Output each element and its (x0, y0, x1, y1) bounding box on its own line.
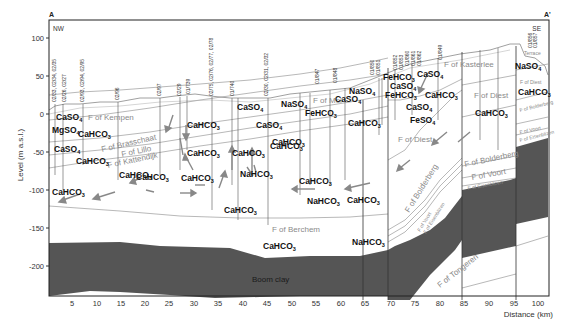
y-axis-label: Level (m a.s.l.) (16, 128, 25, 181)
x-tick: 40 (239, 299, 247, 308)
water-type: CaHCO3 (119, 170, 152, 181)
x-tick: 95 (510, 299, 518, 308)
y-tick: 50 (36, 72, 44, 81)
water-type: CaSO4 (237, 102, 264, 113)
y-tick: 100 (31, 34, 44, 43)
well-label: 01/851 (375, 59, 381, 75)
water-type: NaHCO3 (352, 237, 385, 248)
x-tick: 90 (485, 299, 493, 308)
formation-label: Boom clay (252, 275, 289, 284)
water-type: CaHCO3 (78, 129, 111, 140)
water-type: FeSO4 (410, 115, 436, 126)
water-type: CaHCO3 (518, 87, 551, 98)
x-tick: 25 (165, 299, 173, 308)
formation-label: F of Diest (520, 79, 542, 85)
x-axis-label: Distance (km) (504, 310, 554, 319)
water-type: NaHCO3 (240, 169, 273, 180)
water-type: CaSO4 (406, 102, 433, 113)
hydrogeological-cross-section: 100 50 0 -50 -100 -150 -200 Level (m a.s… (0, 0, 567, 331)
well-label: 01/847 (314, 68, 320, 84)
water-type: CaHCO3 (181, 173, 214, 184)
water-type: CaHCO3 (76, 156, 109, 167)
water-type: NaHCO3 (307, 196, 340, 207)
well-label: 02/30, 02/31, 02/32 (263, 53, 269, 96)
x-tick: 20 (141, 299, 149, 308)
well-label: 02/93, 02/94, 02/95 (79, 59, 85, 102)
formation-label: F of Bolderberg (464, 149, 520, 169)
x-tick: 100 (532, 299, 545, 308)
well-label: 02/96 (114, 87, 120, 100)
y-tick: -100 (29, 186, 44, 195)
y-tick: 0 (40, 110, 44, 119)
direction-nw: NW (53, 25, 65, 32)
formation-label: F of Kempen (88, 113, 134, 122)
water-type: CaHCO3 (232, 148, 265, 159)
formation-label: F of Diest (398, 135, 433, 144)
section-start-label: A (49, 11, 54, 18)
water-type: CaHCO3 (52, 187, 85, 198)
well-label: 01/862 (416, 50, 422, 66)
water-type: FeHCO3 (385, 90, 417, 101)
x-tick: 65 (361, 299, 369, 308)
water-type: CaSO4 (54, 144, 81, 155)
water-type: CaHCO3 (224, 205, 257, 216)
water-type: NaSO4 (515, 61, 542, 72)
water-type: CaHCO3 (299, 176, 332, 187)
x-tick: 5 (70, 299, 74, 308)
formation-label: F of Bolderberg (403, 163, 440, 215)
well-label: 01/849 (437, 44, 443, 60)
formation-label: Terrace (524, 50, 541, 56)
x-tick: 50 (288, 299, 296, 308)
x-tick: 80 (436, 299, 444, 308)
x-tick: 30 (190, 299, 198, 308)
well-label: 02/29 (176, 83, 182, 96)
well-label: 02/75, 02/76, 02/77, 02/78 (208, 37, 214, 96)
well-label: 02/33, 02/34, 02/35 (51, 59, 57, 102)
water-type: CaHCO3 (475, 108, 508, 119)
direction-se: SE (532, 25, 541, 32)
y-tick: -150 (29, 224, 44, 233)
well-label: 01/857 (532, 32, 538, 48)
x-tick: 15 (117, 299, 125, 308)
water-type: CaHCO3 (348, 118, 381, 129)
water-type: FeHCO3 (305, 108, 337, 119)
water-type: CaHCO3 (425, 90, 458, 101)
x-axis: 5 10 15 20 25 30 35 40 45 50 55 60 65 70… (70, 299, 553, 319)
water-type: CaHCO3 (263, 241, 296, 252)
x-tick: 45 (263, 299, 271, 308)
well-label: 02/97 (156, 83, 162, 96)
water-type: CaHCO3 (187, 120, 220, 131)
x-tick: 60 (337, 299, 345, 308)
x-tick: 55 (312, 299, 320, 308)
y-tick: -200 (29, 262, 44, 271)
formation-label: F of Diest (474, 91, 509, 100)
water-type: NaSO4 (349, 86, 376, 97)
x-tick: 35 (214, 299, 222, 308)
y-axis: 100 50 0 -50 -100 -150 -200 Level (m a.s… (16, 34, 49, 271)
well-label: 02/26, 02/27 (61, 74, 67, 102)
water-type: MgSO4 (52, 125, 81, 136)
x-tick: 70 (387, 299, 395, 308)
well-label: 01/739 (185, 78, 191, 94)
water-type: CaSO4 (417, 69, 444, 80)
water-type: CaHCO3 (187, 148, 220, 159)
x-tick: 10 (93, 299, 101, 308)
formation-label: F of Berchem (272, 225, 320, 234)
water-type: CaHCO3 (272, 137, 305, 148)
x-tick: 85 (460, 299, 468, 308)
section-end-label: A' (544, 11, 551, 18)
formation-label: F of Kasterlee (444, 60, 494, 69)
water-type: CaHCO3 (347, 195, 380, 206)
well-label: 01/740 (229, 80, 235, 96)
x-tick: 75 (411, 299, 419, 308)
water-type: CaSO4 (256, 120, 283, 131)
water-type: CaSO4 (56, 112, 83, 123)
y-tick: -50 (33, 148, 44, 157)
well-label: 01/848 (332, 67, 338, 83)
